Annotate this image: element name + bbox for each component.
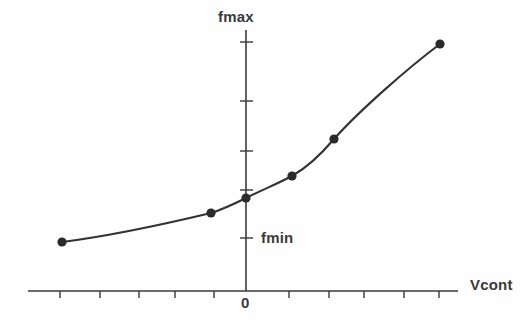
data-point-markers (57, 39, 444, 246)
data-point (329, 134, 338, 143)
chart-figure: fmax fmin Vcont 0 (0, 0, 530, 324)
x-axis-label: Vcont (470, 276, 513, 293)
y-axis-top-label: fmax (218, 8, 254, 25)
data-point (206, 208, 215, 217)
data-curve (62, 44, 440, 242)
data-point (241, 193, 250, 202)
data-point (435, 39, 444, 48)
data-point (287, 171, 296, 180)
plot-canvas (0, 0, 530, 324)
data-point (57, 237, 66, 246)
y-axis-low-label: fmin (261, 229, 293, 246)
origin-label: 0 (241, 294, 250, 311)
